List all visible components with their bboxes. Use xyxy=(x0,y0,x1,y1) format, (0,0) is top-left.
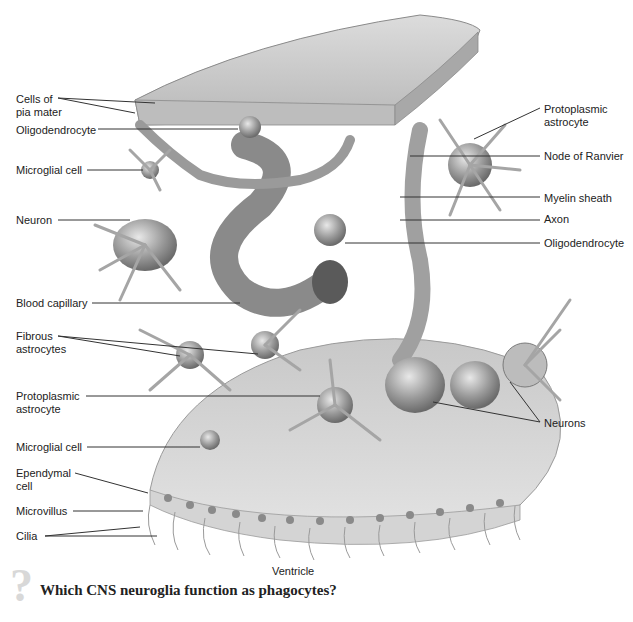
caption-ventricle: Ventricle xyxy=(272,565,314,577)
myelinated-axon-shape xyxy=(400,130,423,360)
label-myelin-sheath: Myelin sheath xyxy=(544,192,612,205)
label-node-of-ranvier: Node of Ranvier xyxy=(544,150,624,163)
label-oligodendrocyte-left: Oligodendrocyte xyxy=(16,124,96,137)
label-microglial-cell-bottom: Microglial cell xyxy=(16,441,82,454)
label-oligodendrocyte-right: Oligodendrocyte xyxy=(544,237,624,250)
label-protoplasmic-astrocyte-left: Protoplasmic astrocyte xyxy=(16,390,80,416)
label-blood-capillary: Blood capillary xyxy=(16,297,88,310)
question-text: Which CNS neuroglia function as phagocyt… xyxy=(40,582,337,599)
label-neuron: Neuron xyxy=(16,214,52,227)
label-ependymal-cell: Ependymal cell xyxy=(16,467,71,493)
pia-mater-slab xyxy=(135,15,480,125)
label-neurons: Neurons xyxy=(544,417,586,430)
illustration xyxy=(0,0,633,622)
label-cells-of-pia-mater: Cells of pia mater xyxy=(16,93,62,119)
neuroglia-figure: Cells of pia mater Oligodendrocyte Micro… xyxy=(0,0,633,622)
label-cilia: Cilia xyxy=(16,530,37,543)
label-microglial-cell-top: Microglial cell xyxy=(16,164,82,177)
label-fibrous-astrocytes: Fibrous astrocytes xyxy=(16,330,66,356)
label-microvillus: Microvillus xyxy=(16,505,67,518)
label-protoplasmic-astrocyte-right: Protoplasmic astrocyte xyxy=(544,103,608,129)
label-axon: Axon xyxy=(544,213,569,226)
question-mark-icon: ? xyxy=(10,563,33,609)
